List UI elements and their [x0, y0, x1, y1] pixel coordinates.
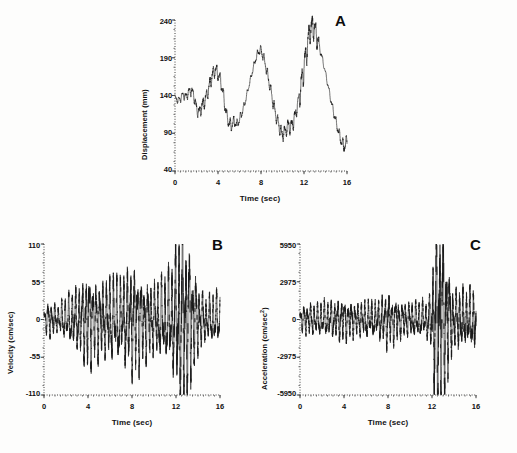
panel-b-plot — [4, 232, 256, 450]
panel-a: A Displacement (mm) 240 190 140 90 40 0 … — [138, 8, 383, 220]
panel-c: C Acceleration (cm/sec2) 5950 2975 0 -29… — [258, 232, 514, 450]
panel-c-plot — [258, 232, 514, 450]
panel-a-plot — [138, 8, 383, 220]
figure-root: A Displacement (mm) 240 190 140 90 40 0 … — [0, 0, 517, 453]
panel-b: B Velocity (cm/sec) 110 55 0 -55 -110 0 … — [4, 232, 256, 450]
